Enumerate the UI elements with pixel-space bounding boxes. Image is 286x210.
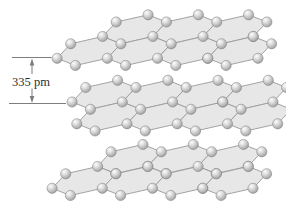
carbon-atom xyxy=(67,97,77,107)
carbon-atom xyxy=(166,39,176,49)
carbon-atom xyxy=(168,97,178,107)
carbon-atom xyxy=(152,53,162,63)
carbon-atom xyxy=(257,147,267,157)
carbon-atom xyxy=(61,169,71,179)
carbon-atom xyxy=(72,119,82,129)
carbon-atom xyxy=(136,104,146,114)
carbon-atom xyxy=(121,60,131,70)
carbon-atom xyxy=(147,183,157,193)
graphite-layer-bottom xyxy=(47,139,272,200)
carbon-atom xyxy=(188,139,198,149)
carbon-atom xyxy=(131,82,141,92)
carbon-atom xyxy=(52,53,62,63)
carbon-atom xyxy=(262,169,272,179)
carbon-atom xyxy=(267,39,277,49)
carbon-atom xyxy=(244,10,254,20)
carbon-atom xyxy=(143,10,153,20)
carbon-atom xyxy=(216,39,226,49)
graphite-layer-middle xyxy=(67,75,286,136)
carbon-atom xyxy=(211,169,221,179)
carbon-atom xyxy=(190,126,200,136)
carbon-atom xyxy=(138,139,148,149)
carbon-atom xyxy=(66,39,76,49)
carbon-atom xyxy=(161,169,171,179)
carbon-atom xyxy=(148,31,158,41)
carbon-atom xyxy=(263,75,273,85)
interlayer-spacing-annotation: 335 pm xyxy=(9,58,66,104)
carbon-atom xyxy=(216,190,226,200)
carbon-atom xyxy=(122,119,132,129)
carbon-atom xyxy=(231,82,241,92)
figure-canvas: 335 pm xyxy=(0,0,286,210)
carbon-atom xyxy=(113,75,123,85)
carbon-atom xyxy=(222,119,232,129)
carbon-atom xyxy=(166,190,176,200)
carbon-atom xyxy=(207,147,217,157)
carbon-atom xyxy=(156,147,166,157)
carbon-atom xyxy=(102,53,112,63)
carbon-atom xyxy=(140,126,150,136)
interlayer-spacing-label: 335 pm xyxy=(12,75,50,89)
carbon-atom xyxy=(81,82,91,92)
carbon-atom xyxy=(193,10,203,20)
carbon-atom xyxy=(186,104,196,114)
graphite-layers xyxy=(47,10,286,201)
carbon-atom xyxy=(273,119,283,129)
carbon-atom xyxy=(161,17,171,27)
carbon-atom xyxy=(236,104,246,114)
carbon-atom xyxy=(181,82,191,92)
carbon-atom xyxy=(116,39,126,49)
carbon-atom xyxy=(221,60,231,70)
carbon-atom xyxy=(106,147,116,157)
carbon-atom xyxy=(117,97,127,107)
carbon-atom xyxy=(93,161,103,171)
carbon-atom xyxy=(198,183,208,193)
carbon-atom xyxy=(262,17,272,27)
spacing-arrowhead-up-icon xyxy=(30,59,35,66)
carbon-atom xyxy=(98,31,108,41)
carbon-atom xyxy=(70,60,80,70)
carbon-atom xyxy=(163,75,173,85)
carbon-atom xyxy=(243,161,253,171)
carbon-atom xyxy=(172,119,182,129)
graphite-structure-diagram: 335 pm xyxy=(0,0,286,210)
spacing-arrowhead-down-icon xyxy=(30,96,35,103)
carbon-atom xyxy=(111,17,121,27)
carbon-atom xyxy=(65,190,75,200)
carbon-atom xyxy=(198,31,208,41)
carbon-atom xyxy=(253,53,263,63)
carbon-atom xyxy=(47,183,57,193)
carbon-atom xyxy=(248,31,258,41)
carbon-atom xyxy=(97,183,107,193)
carbon-atom xyxy=(203,53,213,63)
carbon-atom xyxy=(212,17,222,27)
carbon-atom xyxy=(218,97,228,107)
carbon-atom xyxy=(268,97,278,107)
carbon-atom xyxy=(111,169,121,179)
carbon-atom xyxy=(248,183,258,193)
carbon-atom xyxy=(213,75,223,85)
carbon-atom xyxy=(116,190,126,200)
carbon-atom xyxy=(85,104,95,114)
graphite-layer-top xyxy=(52,10,277,71)
carbon-atom xyxy=(238,139,248,149)
carbon-atom xyxy=(171,60,181,70)
carbon-atom xyxy=(90,126,100,136)
carbon-atom xyxy=(193,161,203,171)
carbon-atom xyxy=(241,126,251,136)
carbon-atom xyxy=(143,161,153,171)
